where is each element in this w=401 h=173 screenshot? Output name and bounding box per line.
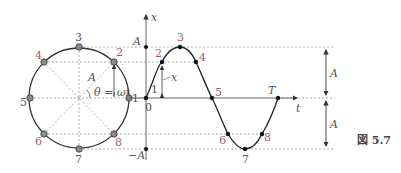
period-label: T <box>268 84 277 97</box>
circle-label-8: 8 <box>115 136 122 149</box>
graph-point-3 <box>178 45 182 49</box>
circle-center-dot <box>78 97 81 100</box>
graph-point-7 <box>243 147 247 151</box>
axis-label-negA: −A <box>128 149 145 162</box>
graph-point-2 <box>160 60 164 64</box>
axis-marker-A <box>144 45 148 49</box>
graph-label-3: 3 <box>177 31 184 44</box>
circle-label-6: 6 <box>35 135 42 148</box>
circle-label-4: 4 <box>35 49 42 62</box>
displacement-leader <box>163 77 170 80</box>
graph-label-5: 5 <box>215 86 222 99</box>
circle-point-2 <box>111 59 117 65</box>
dimension-label-lower: A <box>329 118 338 131</box>
graph-point-5 <box>210 96 214 100</box>
t-axis-label: t <box>296 102 301 115</box>
circle-label-1: 1 <box>132 92 139 105</box>
x-axis-label: x <box>151 11 158 24</box>
graph-label-origin: 0 <box>145 101 152 114</box>
circle-label-2: 2 <box>116 46 123 59</box>
graph-label-6: 6 <box>219 134 226 147</box>
displacement-label: x <box>171 71 178 84</box>
circle-label-5: 5 <box>20 96 27 109</box>
circle-label-3: 3 <box>75 31 82 44</box>
simple-harmonic-motion-diagram: 1 2 3 4 5 6 7 8 A θ = ωt x t A −A x 1 0 … <box>0 0 401 173</box>
graph-point-T <box>276 96 280 100</box>
circle-label-7: 7 <box>75 153 82 166</box>
figure-caption: 図 5.7 <box>357 133 391 147</box>
graph-point-1 <box>144 96 148 100</box>
graph-label-2: 2 <box>155 47 162 60</box>
angle-arc <box>87 90 90 98</box>
circle-point-5 <box>27 95 33 101</box>
graph-point-6 <box>226 132 230 136</box>
axis-label-A: A <box>132 35 141 48</box>
dimension-label-upper: A <box>329 67 338 80</box>
circle-point-7 <box>76 146 82 152</box>
graph-label-4: 4 <box>199 51 206 64</box>
graph-label-7: 7 <box>242 153 249 166</box>
radius-label: A <box>87 71 96 84</box>
angle-label: θ = ωt <box>94 86 131 99</box>
graph-label-8: 8 <box>264 131 271 144</box>
graph-label-1: 1 <box>151 83 158 96</box>
circle-point-3 <box>76 44 82 50</box>
graph-point-4 <box>194 60 198 64</box>
